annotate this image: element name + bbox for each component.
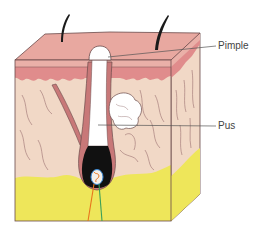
pus-label: Pus (218, 121, 235, 131)
pimple-label: Pimple (218, 41, 249, 51)
skin-block-side-face (171, 33, 200, 221)
skin-cross-section-diagram (0, 0, 261, 235)
dermal-papilla (91, 170, 103, 185)
